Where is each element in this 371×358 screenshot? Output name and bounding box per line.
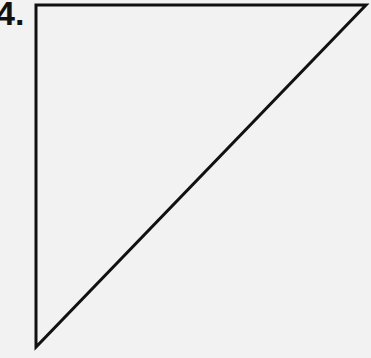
right-triangle-figure — [0, 0, 371, 358]
triangle — [36, 5, 366, 347]
